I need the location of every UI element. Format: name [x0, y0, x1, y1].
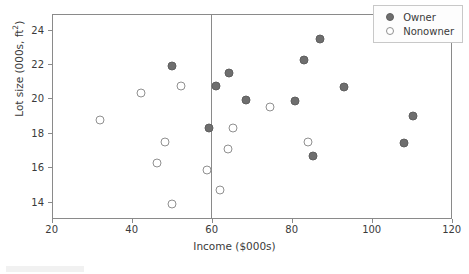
y-axis-title-main: Lot size (000s, ft — [13, 30, 25, 117]
x-tick-label: 120 — [442, 224, 461, 235]
data-point-owner — [315, 35, 324, 44]
data-point-owner — [339, 83, 348, 92]
data-point-nonowner — [202, 166, 211, 175]
y-tick-label: 22 — [31, 58, 44, 69]
legend-label: Owner — [403, 11, 436, 24]
data-point-owner — [408, 111, 417, 120]
x-axis-title: Income ($000s) — [0, 240, 469, 252]
legend-item-nonowner[interactable]: Nonowner — [380, 24, 454, 38]
data-point-nonowner — [136, 89, 145, 98]
x-tick-label: 60 — [205, 224, 218, 235]
y-tick-label: 24 — [31, 24, 44, 35]
y-axis-title-close: ) — [13, 21, 25, 25]
data-point-owner — [167, 61, 176, 70]
y-axis-title: Lot size (000s, ft2) — [11, 0, 25, 164]
data-point-nonowner — [152, 159, 161, 168]
x-tick-mark — [292, 219, 293, 223]
data-point-nonowner — [161, 137, 170, 146]
threshold-vertical-line — [211, 15, 212, 218]
y-axis-title-superscript: 2 — [11, 25, 20, 30]
data-point-nonowner — [95, 116, 104, 125]
data-point-nonowner — [228, 123, 237, 132]
scatter-plot-figure: Lot size (000s, ft2) 141618202224 204060… — [0, 0, 469, 274]
data-point-nonowner — [223, 145, 232, 154]
data-point-owner — [299, 55, 308, 64]
legend-item-owner[interactable]: Owner — [380, 10, 454, 24]
data-point-nonowner — [265, 103, 274, 112]
legend-label: Nonowner — [403, 25, 454, 38]
legend: OwnerNonowner — [373, 5, 463, 43]
x-tick-mark — [452, 219, 453, 223]
data-point-owner — [291, 97, 300, 106]
x-tick-label: 80 — [285, 224, 298, 235]
data-point-nonowner — [167, 199, 176, 208]
data-point-nonowner — [216, 185, 225, 194]
open-circle-icon — [386, 27, 394, 35]
plot-area — [52, 14, 452, 219]
x-tick-label: 100 — [362, 224, 381, 235]
data-point-owner — [205, 123, 214, 132]
x-tick-mark — [132, 219, 133, 223]
data-point-owner — [242, 96, 251, 105]
x-tick-label: 40 — [125, 224, 138, 235]
data-point-nonowner — [176, 82, 185, 91]
data-point-owner — [211, 82, 220, 91]
y-tick-label: 18 — [31, 127, 44, 138]
y-tick-label: 20 — [31, 93, 44, 104]
y-tick-label: 16 — [31, 162, 44, 173]
data-point-nonowner — [303, 138, 312, 147]
y-tick-label: 14 — [31, 196, 44, 207]
data-point-owner — [225, 68, 234, 77]
x-tick-mark — [52, 219, 53, 223]
data-point-owner — [400, 139, 409, 148]
x-tick-mark — [212, 219, 213, 223]
filled-circle-icon — [386, 13, 394, 21]
x-tick-mark — [372, 219, 373, 223]
data-point-owner — [309, 152, 318, 161]
footer-decoration-bar — [6, 266, 84, 272]
x-tick-label: 20 — [45, 224, 58, 235]
